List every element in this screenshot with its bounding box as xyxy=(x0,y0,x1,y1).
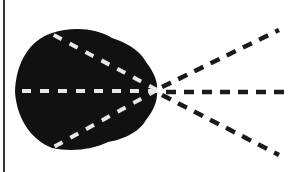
outer-dashed-lines xyxy=(162,30,290,155)
diagram-svg xyxy=(0,0,290,172)
outer-dash-upper xyxy=(162,30,279,87)
diagram-canvas: Black lobed shape with converging dashed… xyxy=(0,0,290,172)
outer-dash-lower xyxy=(162,95,279,155)
